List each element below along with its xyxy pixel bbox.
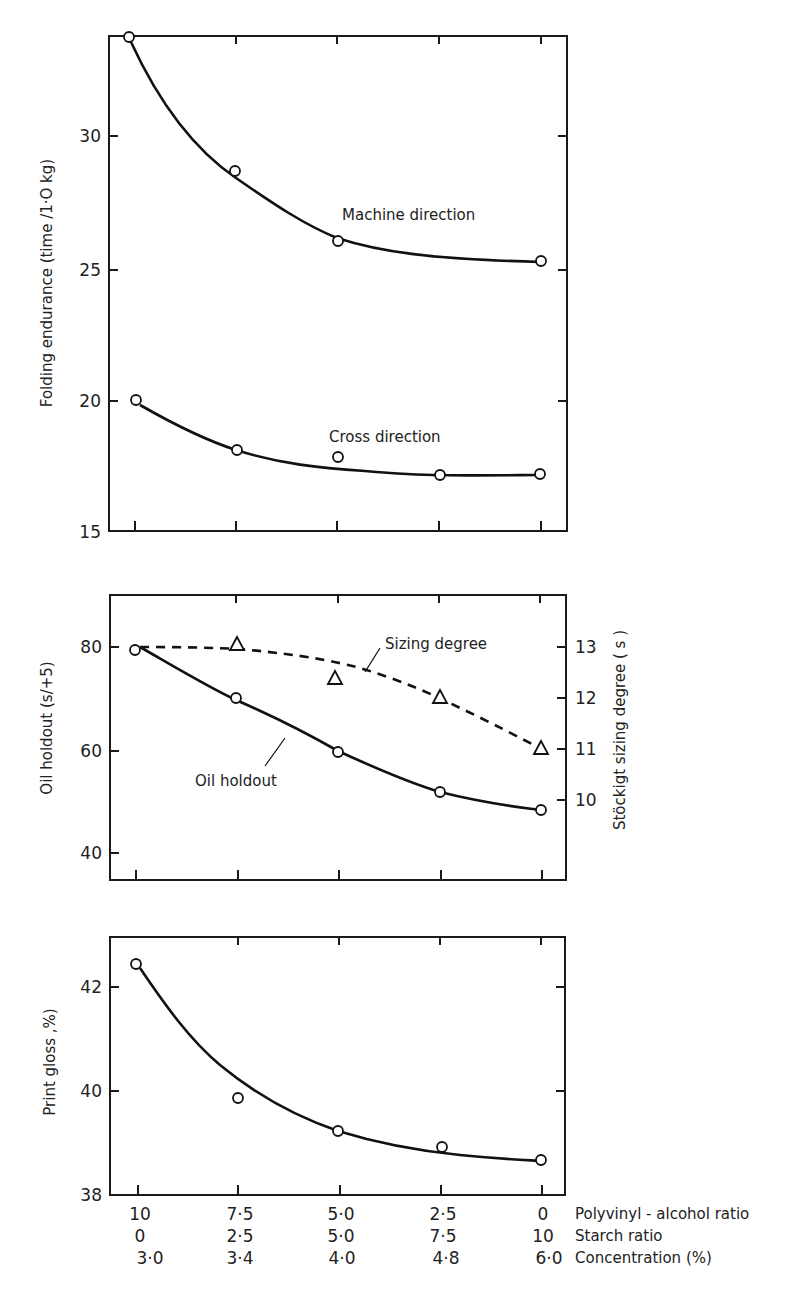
x-tick-label: 6·0: [535, 1248, 562, 1268]
x-tick-label: 0: [538, 1204, 549, 1224]
y-right-tick-label: 11: [575, 739, 597, 759]
x-tick-label: 5·0: [327, 1204, 354, 1224]
y-ticks: [110, 987, 565, 1091]
panel-print-gloss: 42 40 38 Print gloss ,%): [41, 937, 565, 1205]
y-tick-label: 80: [80, 637, 102, 657]
sizing-degree-label: Sizing degree: [385, 635, 487, 653]
x-axis-rows: 10 7·5 5·0 2·5 0 Polyvinyl - alcohol rat…: [129, 1204, 749, 1268]
cross-direction-label: Cross direction: [329, 428, 441, 446]
y-axis-title: Oil holdout (s/+5): [38, 661, 56, 794]
x-tick-label: 3·0: [136, 1248, 163, 1268]
y-ticks: [109, 136, 567, 401]
plot-frame: [110, 937, 565, 1195]
x-tick-label: 4·8: [432, 1248, 459, 1268]
oil-holdout-label: Oil holdout: [195, 772, 277, 790]
print-gloss-markers: [131, 959, 546, 1165]
machine-direction-curve: [131, 42, 541, 262]
plot-frame: [110, 595, 566, 880]
y-right-tick-label: 10: [575, 790, 597, 810]
y-tick-label: 30: [79, 126, 101, 146]
x-row-title-pva: Polyvinyl - alcohol ratio: [575, 1205, 749, 1223]
oil-holdout-pointer: [265, 738, 285, 766]
x-tick-label: 10: [532, 1226, 554, 1246]
y-tick-label: 40: [80, 1081, 102, 1101]
y-axis-title: Print gloss ,%): [41, 1008, 59, 1115]
y-right-axis-title: Stöckigt sizing degree ( s ): [611, 630, 629, 830]
x-tick-label: 10: [129, 1204, 151, 1224]
sizing-degree-pointer: [365, 648, 380, 672]
sizing-degree-markers: [230, 637, 548, 754]
panel-folding-endurance: 30 25 20 15 Folding endurance (time /1·O…: [38, 32, 567, 542]
x-tick-label: 0: [135, 1226, 146, 1246]
sizing-degree-curve: [140, 647, 536, 746]
y-tick-label: 15: [79, 522, 101, 542]
x-tick-label: 2·5: [226, 1226, 253, 1246]
x-row-title-starch: Starch ratio: [575, 1227, 663, 1245]
figure-canvas: 30 25 20 15 Folding endurance (time /1·O…: [0, 0, 796, 1300]
y-right-tick-label: 13: [575, 637, 597, 657]
oil-holdout-markers: [130, 645, 546, 815]
x-tick-label: 7·5: [429, 1226, 456, 1246]
y-tick-label: 20: [79, 391, 101, 411]
y-tick-label: 60: [80, 741, 102, 761]
x-tick-label: 4·0: [328, 1248, 355, 1268]
x-tick-label: 3·4: [226, 1248, 253, 1268]
x-row-title-concentration: Concentration (%): [575, 1249, 712, 1267]
x-tick-label: 7·5: [226, 1204, 253, 1224]
x-tick-label: 2·5: [429, 1204, 456, 1224]
y-tick-label: 25: [79, 260, 101, 280]
machine-direction-label: Machine direction: [342, 206, 475, 224]
x-tick-label: 5·0: [327, 1226, 354, 1246]
y-right-tick-label: 12: [575, 688, 597, 708]
y-tick-label: 42: [80, 977, 102, 997]
y-tick-label: 38: [80, 1185, 102, 1205]
panel-oil-holdout: 80 60 40 13 12 11 10 Oil holdout (s/+5) …: [38, 595, 629, 880]
machine-direction-markers: [124, 32, 546, 266]
y-tick-label: 40: [80, 843, 102, 863]
y-axis-title: Folding endurance (time /1·O kg): [38, 159, 56, 407]
